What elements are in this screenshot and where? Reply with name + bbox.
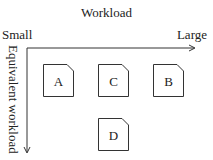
node-label-a: A: [43, 75, 74, 88]
node-label-c: C: [98, 75, 129, 88]
y-axis-arrow: [24, 48, 30, 153]
x-axis-arrow: [27, 45, 195, 51]
node-label-d: D: [98, 129, 129, 142]
node-label-b: B: [153, 75, 184, 88]
